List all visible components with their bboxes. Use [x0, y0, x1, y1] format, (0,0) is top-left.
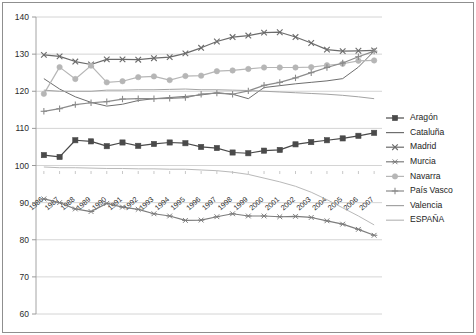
y-axis-tick-label: 80 — [20, 235, 30, 245]
x-axis-tick-label: 1999 — [232, 195, 250, 213]
y-axis-tick-label: 110 — [15, 123, 29, 133]
x-axis-tick-label: 1994 — [153, 195, 171, 213]
x-axis-tick-label: 2004 — [310, 195, 328, 213]
y-axis-tick-label: 60 — [20, 309, 30, 319]
x-axis-tick-label: 2002 — [279, 195, 297, 213]
x-axis-tick-label: 2003 — [294, 195, 312, 213]
legend-item-espa-a[interactable]: ESPAÑA — [386, 214, 444, 224]
series-line-espa-a — [44, 167, 374, 225]
series-line-catalu-a — [44, 51, 374, 106]
chart-root: 6070809010011012013014019861987198819891… — [0, 0, 476, 335]
x-axis-tick-label: 2006 — [342, 195, 360, 213]
legend-item-catalu-a[interactable]: Cataluña — [386, 127, 445, 137]
legend-item-label: Aragón — [410, 112, 438, 122]
x-axis-tick-label: 2001 — [263, 195, 281, 213]
x-axis-tick-label: 1997 — [200, 195, 218, 213]
y-axis-tick-label: 130 — [15, 49, 29, 59]
legend-item-arag-n[interactable]: Aragón — [386, 112, 438, 122]
x-axis-tick-label: 2007 — [357, 195, 375, 213]
legend-item-label: Navarra — [410, 171, 441, 181]
legend-item-label: Cataluña — [410, 127, 445, 137]
legend-item-label: Valencia — [410, 200, 443, 210]
legend-item-madrid[interactable]: Madrid — [386, 141, 436, 151]
series-line-arag-n — [41, 130, 376, 159]
legend-item-label: Murcia — [410, 156, 436, 166]
legend-item-pa-s-vasco[interactable]: País Vasco — [386, 185, 453, 195]
y-axis-tick-label: 70 — [20, 272, 30, 282]
legend-item-navarra[interactable]: Navarra — [386, 171, 441, 181]
y-axis-tick-label: 120 — [15, 86, 29, 96]
x-axis-tick-label: 2000 — [247, 195, 265, 213]
y-axis-tick-label: 100 — [15, 161, 29, 171]
x-axis-tick-label: 1998 — [216, 195, 234, 213]
chart-legend: AragónCataluñaMadridMurciaNavarraPaís Va… — [386, 112, 453, 224]
y-axis-tick-label: 140 — [15, 12, 29, 22]
line-chart: 6070809010011012013014019861987198819891… — [0, 0, 476, 335]
y-gridlines: 60708090100110120130140 — [15, 12, 382, 319]
x-axis-tick-label: 1995 — [169, 195, 187, 213]
legend-item-label: País Vasco — [410, 185, 453, 195]
legend-item-valencia[interactable]: Valencia — [386, 200, 443, 210]
legend-item-label: Madrid — [410, 141, 436, 151]
legend-item-label: ESPAÑA — [410, 214, 444, 224]
legend-item-murcia[interactable]: Murcia — [386, 156, 436, 166]
x-axis-labels: 1986198719881989199019911992199319941995… — [27, 171, 375, 212]
x-axis-tick-label: 1996 — [184, 195, 202, 213]
series-line-madrid — [41, 29, 377, 67]
